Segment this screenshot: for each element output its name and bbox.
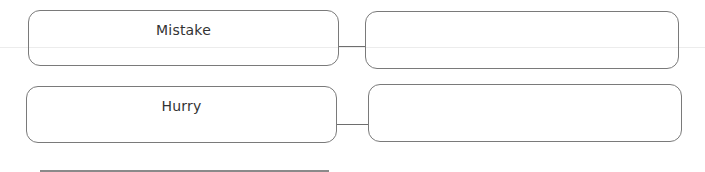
answer-box-mistake[interactable] [365, 11, 679, 69]
next-box-top-edge [40, 170, 329, 172]
word-label: Hurry [162, 98, 202, 114]
word-box-mistake: Mistake [28, 10, 339, 66]
connector-line [337, 124, 369, 125]
word-label: Mistake [156, 22, 211, 38]
word-box-hurry: Hurry [26, 86, 337, 143]
answer-box-hurry[interactable] [368, 84, 682, 142]
connector-line [339, 46, 366, 47]
